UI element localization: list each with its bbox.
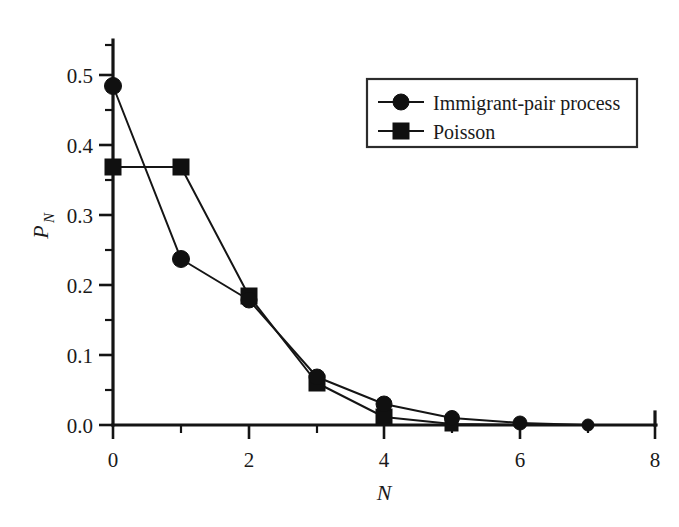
immigrant-pair-marker-7: [582, 419, 594, 431]
y-tick-label-1: 0.1: [67, 344, 93, 368]
legend-label-0: Immigrant-pair process: [433, 92, 620, 115]
immigrant-pair-marker-3: [309, 369, 325, 385]
x-tick-label-3: 6: [515, 448, 526, 472]
immigrant-pair-marker-4: [376, 396, 392, 412]
x-tick-label-2: 4: [379, 448, 390, 472]
immigrant-pair-marker-2: [241, 292, 257, 308]
poisson-marker-0: [105, 159, 121, 175]
y-axis-title: P: [28, 225, 53, 239]
y-tick-label-2: 0.2: [67, 274, 93, 298]
legend-circle-marker-icon: [393, 94, 409, 110]
immigrant-pair-marker-0: [105, 78, 122, 95]
immigrant-pair-marker-1: [173, 251, 190, 268]
y-tick-label-4: 0.4: [67, 134, 94, 158]
immigrant-pair-marker-5: [445, 411, 460, 426]
chart-figure: 0.0 0.1 0.2 0.3 0.4 0.5 0 2 4 6: [0, 0, 679, 527]
legend-label-1: Poisson: [433, 121, 495, 143]
immigrant-pair-marker-6: [513, 416, 527, 430]
x-tick-label-0: 0: [108, 448, 119, 472]
y-tick-label-5: 0.5: [67, 64, 93, 88]
x-tick-label-1: 2: [244, 448, 255, 472]
legend-square-marker-icon: [393, 123, 409, 139]
y-tick-label-3: 0.3: [67, 204, 93, 228]
y-axis-title-subscript: N: [41, 212, 57, 224]
chart-legend[interactable]: Immigrant-pair process Poisson: [367, 79, 637, 147]
y-tick-label-0: 0.0: [67, 414, 93, 438]
chart-svg: 0.0 0.1 0.2 0.3 0.4 0.5 0 2 4 6: [0, 0, 679, 527]
x-tick-label-4: 8: [650, 448, 661, 472]
poisson-marker-1: [173, 159, 189, 175]
x-axis-title: N: [376, 480, 393, 505]
